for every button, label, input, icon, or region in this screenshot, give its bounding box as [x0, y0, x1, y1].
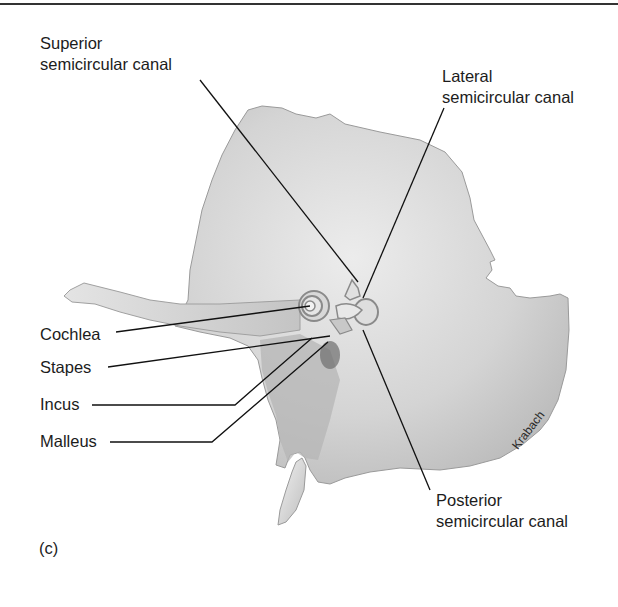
label-lateral-line1: Lateral [442, 66, 574, 87]
label-lateral-semicircular-canal: Lateral semicircular canal [442, 66, 574, 108]
label-stapes: Stapes [40, 357, 91, 378]
label-superior-line1: Superior [40, 33, 172, 54]
label-lateral-line2: semicircular canal [442, 87, 574, 108]
label-posterior-line2: semicircular canal [436, 511, 568, 532]
label-incus: Incus [40, 394, 79, 415]
styloid-process [278, 458, 306, 525]
dark-fossa [320, 341, 340, 369]
label-malleus: Malleus [40, 431, 97, 452]
label-superior-line2: semicircular canal [40, 54, 172, 75]
label-superior-semicircular-canal: Superior semicircular canal [40, 33, 172, 75]
label-posterior-semicircular-canal: Posterior semicircular canal [436, 490, 568, 532]
label-posterior-line1: Posterior [436, 490, 568, 511]
label-cochlea: Cochlea [40, 324, 101, 345]
panel-label: (c) [39, 538, 58, 559]
bone-body [175, 106, 569, 484]
cochlea-structure [299, 291, 329, 321]
